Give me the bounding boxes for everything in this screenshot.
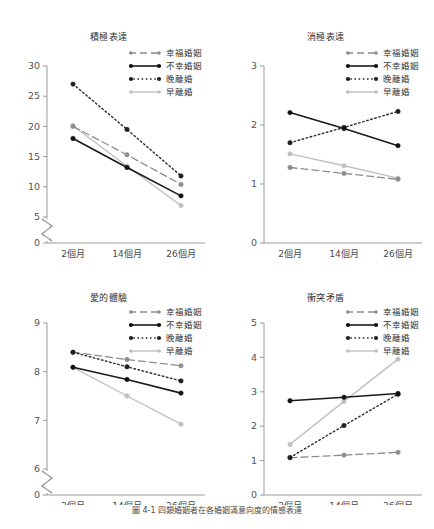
svg-text:9: 9 xyxy=(34,317,40,328)
series-point-happy xyxy=(71,124,75,128)
series-point-late_divorce xyxy=(125,365,129,369)
legend-key-icon-early_divorce xyxy=(345,346,379,356)
legend-key-icon-late_divorce xyxy=(345,74,379,84)
figure-caption: 圖 4-1 四類婚姻者在各婚姻滿意向度的情感表達 xyxy=(0,505,434,529)
legend-key-late_divorce xyxy=(345,74,379,83)
legend-label-early_divorce: 早離婚 xyxy=(383,346,410,356)
series-point-happy xyxy=(125,153,129,157)
legend-key-icon-happy xyxy=(345,307,379,317)
series-point-early_divorce xyxy=(125,394,129,398)
legend-key-icon-happy xyxy=(345,48,379,58)
legend-label-early_divorce: 早離婚 xyxy=(166,87,193,97)
legend-key-early_divorce xyxy=(345,346,379,355)
chart-legend-positive-expression: 幸福婚姻不幸婚姻晚離婚早離婚 xyxy=(128,46,202,98)
legend-key-icon-unhappy xyxy=(345,320,379,330)
legend-key-icon-happy xyxy=(128,307,162,317)
series-point-early_divorce xyxy=(288,152,292,156)
series-point-happy xyxy=(125,357,129,361)
series-point-late_divorce xyxy=(396,109,400,113)
series-point-early_divorce xyxy=(396,357,400,361)
legend-label-unhappy: 不幸婚姻 xyxy=(166,320,202,330)
legend-key-happy xyxy=(345,307,379,316)
legend-item-late_divorce: 晚離婚 xyxy=(345,331,419,344)
legend-item-unhappy: 不幸婚姻 xyxy=(345,59,419,72)
legend-item-happy: 幸福婚姻 xyxy=(128,46,202,59)
svg-text:4: 4 xyxy=(251,352,257,363)
series-point-late_divorce xyxy=(288,455,292,459)
series-point-late_divorce xyxy=(71,82,75,86)
svg-text:6: 6 xyxy=(34,463,40,474)
svg-text:2個月: 2個月 xyxy=(61,248,85,259)
legend-item-unhappy: 不幸婚姻 xyxy=(128,59,202,72)
legend-key-icon-early_divorce xyxy=(128,87,162,97)
series-point-unhappy xyxy=(342,126,346,130)
legend-item-early_divorce: 早離婚 xyxy=(345,344,419,357)
legend-item-early_divorce: 早離婚 xyxy=(128,344,202,357)
legend-key-early_divorce xyxy=(345,87,379,96)
svg-text:30: 30 xyxy=(28,60,40,71)
legend-key-icon-late_divorce xyxy=(128,74,162,84)
svg-text:20: 20 xyxy=(28,121,40,132)
svg-text:2個月: 2個月 xyxy=(278,248,302,259)
chart-grid: 積極表達0510152025302個月14個月26個月幸福婚姻不幸婚姻晚離婚早離… xyxy=(0,0,434,505)
legend-key-icon-unhappy xyxy=(128,320,162,330)
series-point-early_divorce xyxy=(288,442,292,446)
legend-key-late_divorce xyxy=(128,333,162,342)
svg-text:7: 7 xyxy=(34,415,40,426)
caption-line: 圖 4-1 四類婚姻者在各婚姻滿意向度的情感表達 xyxy=(0,505,434,517)
svg-text:2: 2 xyxy=(251,119,257,130)
legend-item-late_divorce: 晚離婚 xyxy=(128,331,202,344)
series-point-unhappy xyxy=(288,110,292,114)
legend-item-late_divorce: 晚離婚 xyxy=(128,72,202,85)
legend-key-early_divorce xyxy=(128,346,162,355)
legend-key-happy xyxy=(128,48,162,57)
legend-label-late_divorce: 晚離婚 xyxy=(383,74,410,84)
legend-key-happy xyxy=(345,48,379,57)
series-point-early_divorce xyxy=(179,422,183,426)
svg-text:5: 5 xyxy=(34,211,40,222)
svg-text:3: 3 xyxy=(251,60,257,71)
series-point-unhappy xyxy=(342,395,346,399)
legend-item-early_divorce: 早離婚 xyxy=(345,85,419,98)
figure-container: 積極表達0510152025302個月14個月26個月幸福婚姻不幸婚姻晚離婚早離… xyxy=(0,0,434,529)
legend-label-early_divorce: 早離婚 xyxy=(383,87,410,97)
svg-text:14個月: 14個月 xyxy=(329,248,358,259)
legend-item-happy: 幸福婚姻 xyxy=(128,305,202,318)
series-point-happy xyxy=(396,450,400,454)
legend-item-happy: 幸福婚姻 xyxy=(345,46,419,59)
series-point-late_divorce xyxy=(71,350,75,354)
legend-key-icon-unhappy xyxy=(128,61,162,71)
svg-text:0: 0 xyxy=(34,237,40,248)
series-point-unhappy xyxy=(71,136,75,140)
legend-key-icon-late_divorce xyxy=(345,333,379,343)
svg-text:26個月: 26個月 xyxy=(166,248,195,259)
svg-text:15: 15 xyxy=(28,151,40,162)
legend-item-early_divorce: 早離婚 xyxy=(128,85,202,98)
series-point-early_divorce xyxy=(342,164,346,168)
chart-title-experience-of-love: 愛的體驗 xyxy=(0,291,217,304)
legend-key-happy xyxy=(128,307,162,316)
svg-text:0: 0 xyxy=(251,237,257,248)
legend-key-icon-unhappy xyxy=(345,61,379,71)
series-point-unhappy xyxy=(288,399,292,403)
series-point-unhappy xyxy=(396,143,400,147)
chart-title-negative-expression: 消極表達 xyxy=(217,30,434,43)
legend-label-late_divorce: 晚離婚 xyxy=(166,333,193,343)
series-point-early_divorce xyxy=(179,203,183,207)
chart-panel-conflict: 衝突矛盾0123452個月14個月26個月幸福婚姻不幸婚姻晚離婚早離婚 xyxy=(217,265,434,505)
legend-label-unhappy: 不幸婚姻 xyxy=(166,61,202,71)
series-point-happy xyxy=(179,364,183,368)
chart-panel-positive-expression: 積極表達0510152025302個月14個月26個月幸福婚姻不幸婚姻晚離婚早離… xyxy=(0,0,217,265)
series-point-late_divorce xyxy=(179,379,183,383)
legend-key-icon-early_divorce xyxy=(128,346,162,356)
series-point-happy xyxy=(288,165,292,169)
series-point-unhappy xyxy=(179,391,183,395)
legend-item-unhappy: 不幸婚姻 xyxy=(128,318,202,331)
chart-legend-conflict: 幸福婚姻不幸婚姻晚離婚早離婚 xyxy=(345,305,419,357)
legend-key-icon-early_divorce xyxy=(345,87,379,97)
series-point-late_divorce xyxy=(179,174,183,178)
legend-label-happy: 幸福婚姻 xyxy=(383,307,419,317)
legend-label-happy: 幸福婚姻 xyxy=(166,48,202,58)
legend-item-late_divorce: 晚離婚 xyxy=(345,72,419,85)
legend-key-late_divorce xyxy=(345,333,379,342)
